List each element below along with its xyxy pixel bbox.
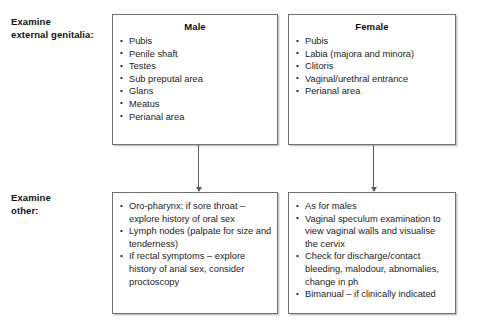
list-item: Vaginal speculum examination to view vag…: [296, 213, 450, 251]
box-other-female: As for males Vaginal speculum examinatio…: [288, 192, 456, 314]
list-item: Perianal area: [296, 85, 450, 98]
list-item: If rectal symptoms – explore history of …: [120, 250, 272, 288]
list-item: Sub preputal area: [120, 73, 272, 86]
list-item: Penile shaft: [120, 48, 272, 61]
list-item: Meatus: [120, 98, 272, 111]
list-item: Pubis: [120, 35, 272, 48]
box-other-male-list: Oro-pharynx: if sore throat – explore hi…: [113, 193, 277, 288]
list-item: Check for discharge/contact bleeding, ma…: [296, 250, 450, 288]
list-item: Vaginal/urethral entrance: [296, 73, 450, 86]
examination-flowchart: Examine external genitalia: Examine othe…: [0, 0, 478, 331]
arrow-shaft: [198, 145, 199, 188]
row-label-examine-external-genitalia: Examine external genitalia:: [11, 16, 111, 41]
box-male-title: Male: [113, 21, 277, 32]
box-other-female-list: As for males Vaginal speculum examinatio…: [289, 193, 455, 301]
box-female-list: Pubis Labia (majora and minora) Clitoris…: [289, 35, 455, 98]
list-item: Labia (majora and minora): [296, 48, 450, 61]
list-item: Glans: [120, 85, 272, 98]
list-item: Perianal area: [120, 111, 272, 124]
box-male: Male Pubis Penile shaft Testes Sub prepu…: [112, 14, 278, 145]
list-item: Clitoris: [296, 60, 450, 73]
list-item: Testes: [120, 60, 272, 73]
list-item: Oro-pharynx: if sore throat – explore hi…: [120, 200, 272, 225]
list-item: Pubis: [296, 35, 450, 48]
list-item: As for males: [296, 200, 450, 213]
box-female: Female Pubis Labia (majora and minora) C…: [288, 14, 456, 145]
box-other-male: Oro-pharynx: if sore throat – explore hi…: [112, 192, 278, 314]
list-item: Lymph nodes (palpate for size and tender…: [120, 225, 272, 250]
box-male-list: Pubis Penile shaft Testes Sub preputal a…: [113, 35, 277, 123]
box-female-title: Female: [289, 21, 455, 32]
list-item: Bimanual – if clinically indicated: [296, 288, 450, 301]
row-label-examine-other: Examine other:: [11, 192, 111, 217]
arrow-shaft: [373, 145, 374, 188]
